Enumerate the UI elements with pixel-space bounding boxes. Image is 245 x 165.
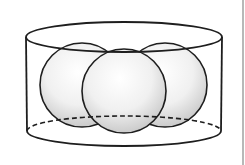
right-border-line	[242, 0, 244, 165]
diagram-canvas	[0, 0, 245, 165]
cylinder-left-side	[26, 37, 27, 131]
sphere-front-middle	[82, 49, 166, 133]
cylinder-right-side	[221, 37, 222, 131]
cylinder-top-ellipse	[26, 22, 222, 52]
cylinder-spheres-diagram	[0, 0, 245, 165]
